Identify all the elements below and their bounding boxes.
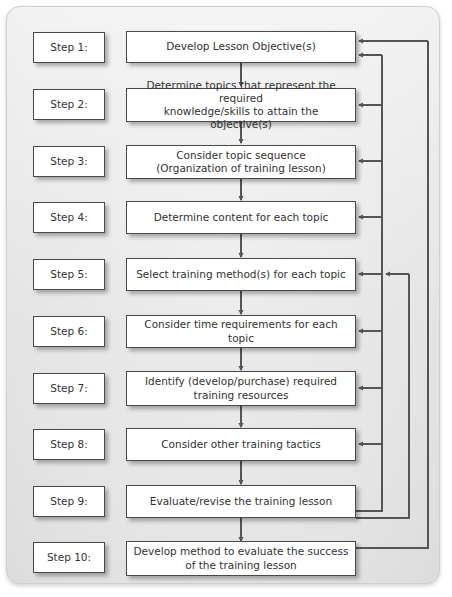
step-box-3[interactable]: Consider topic sequence (Organization of… <box>126 145 356 179</box>
step-box-8[interactable]: Consider other training tactics <box>126 428 356 461</box>
step-label-6[interactable]: Step 6: <box>33 316 105 347</box>
step-label-2-text: Step 2: <box>50 98 87 111</box>
step-box-1[interactable]: Develop Lesson Objective(s) <box>126 31 356 63</box>
step-label-7[interactable]: Step 7: <box>33 373 105 404</box>
step-label-2[interactable]: Step 2: <box>33 89 105 120</box>
step-box-7-line-1: Identify (develop/purchase) required <box>145 375 337 388</box>
step-label-3-text: Step 3: <box>50 155 87 168</box>
step-box-10-line-2: of the training lesson <box>134 559 349 572</box>
step-box-2-line-2: knowledge/skills to attain the objective… <box>133 105 349 131</box>
step-box-6[interactable]: Consider time requirements for each topi… <box>126 315 356 348</box>
flowchart-root: Step 1: Step 2: Step 3: Step 4: Step 5: … <box>0 0 452 597</box>
step-label-7-text: Step 7: <box>50 382 87 395</box>
step-box-8-line-1: Consider other training tactics <box>161 438 321 451</box>
step-box-1-line-1: Develop Lesson Objective(s) <box>166 40 316 53</box>
step-label-8[interactable]: Step 8: <box>33 429 105 460</box>
step-box-2[interactable]: Determine topics that represent the requ… <box>126 88 356 122</box>
step-label-5[interactable]: Step 5: <box>33 259 105 290</box>
step-label-1-text: Step 1: <box>50 41 87 54</box>
step-label-8-text: Step 8: <box>50 438 87 451</box>
step-box-10[interactable]: Develop method to evaluate the success o… <box>126 541 356 576</box>
step-box-5-line-1: Select training method(s) for each topic <box>136 268 346 281</box>
step-box-3-line-1: Consider topic sequence <box>156 149 326 162</box>
step-box-3-line-2: (Organization of training lesson) <box>156 162 326 175</box>
step-box-2-line-1: Determine topics that represent the requ… <box>133 79 349 105</box>
step-label-9-text: Step 9: <box>50 495 87 508</box>
step-label-3[interactable]: Step 3: <box>33 146 105 177</box>
step-label-6-text: Step 6: <box>50 325 87 338</box>
step-box-5[interactable]: Select training method(s) for each topic <box>126 258 356 291</box>
step-label-10[interactable]: Step 10: <box>33 542 105 573</box>
step-box-9-line-1: Evaluate/revise the training lesson <box>150 495 332 508</box>
step-box-4-line-1: Determine content for each topic <box>154 211 329 224</box>
step-box-4[interactable]: Determine content for each topic <box>126 201 356 234</box>
step-box-7-line-2: training resources <box>145 389 337 402</box>
step-label-4-text: Step 4: <box>50 211 87 224</box>
step-label-5-text: Step 5: <box>50 268 87 281</box>
step-label-1[interactable]: Step 1: <box>33 32 105 63</box>
step-box-10-line-1: Develop method to evaluate the success <box>134 545 349 558</box>
step-label-4[interactable]: Step 4: <box>33 202 105 233</box>
step-label-10-text: Step 10: <box>47 551 91 564</box>
step-box-7[interactable]: Identify (develop/purchase) required tra… <box>126 371 356 406</box>
step-label-9[interactable]: Step 9: <box>33 486 105 517</box>
step-box-9[interactable]: Evaluate/revise the training lesson <box>126 485 356 518</box>
step-box-6-line-1: Consider time requirements for each topi… <box>133 318 349 344</box>
